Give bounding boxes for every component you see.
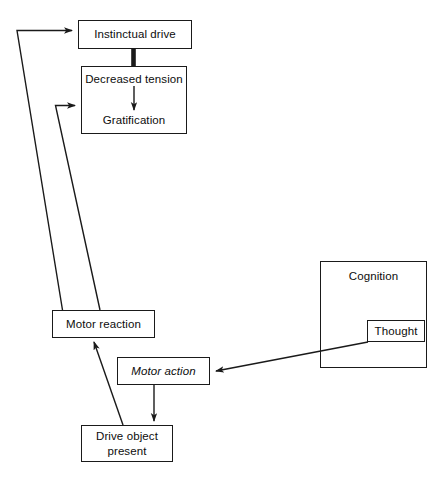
node-instinctual-drive-label: Instinctual drive [94,27,176,41]
node-cognition[interactable]: Cognition [320,261,427,368]
node-cognition-label: Cognition [321,269,426,283]
node-thought-label: Thought [375,324,418,338]
node-drive-object-present[interactable]: Drive object present [81,425,173,462]
node-motor-reaction[interactable]: Motor reaction [52,310,155,338]
edge-motor-reaction-to-instinctual-drive [17,31,72,311]
node-gratification-label: Gratification [82,113,186,127]
node-instinctual-drive[interactable]: Instinctual drive [78,20,192,49]
diagram-edges-layer [0,0,442,477]
diagram-canvas: Instinctual drive Decreased tension Grat… [0,0,442,477]
node-decreased-tension-label: Decreased tension [82,72,186,86]
node-drive-object-present-line2: present [107,445,146,457]
node-motor-action[interactable]: Motor action [117,357,210,385]
node-thought[interactable]: Thought [367,320,425,342]
node-motor-reaction-label: Motor reaction [66,317,141,331]
node-drive-object-present-label: Drive object present [96,429,158,458]
edge-motor-reaction-to-decreased-tension [56,106,101,311]
node-decreased-tension[interactable]: Decreased tension Gratification [81,66,187,134]
node-motor-action-label: Motor action [131,364,195,378]
node-drive-object-present-line1: Drive object [96,430,158,442]
